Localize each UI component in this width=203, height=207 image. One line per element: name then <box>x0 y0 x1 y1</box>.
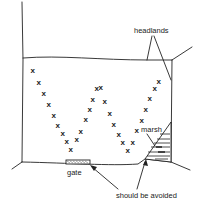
path-marker: x <box>69 145 74 154</box>
path-marker: x <box>75 135 80 144</box>
marsh-label: marsh <box>141 125 162 134</box>
path-marker: x <box>144 105 149 114</box>
path-marker: x <box>99 83 104 92</box>
avoid-label: should be avoided <box>116 191 177 200</box>
path-marker: x <box>31 66 36 75</box>
path-marker: x <box>91 95 96 104</box>
headlands-arrow-top <box>147 36 152 60</box>
marsh-arrow <box>147 134 155 146</box>
field-diagram: xxxxxxxxxxxxxxxxxxxxxxxxxxxxx headlands … <box>0 0 203 207</box>
gate <box>66 160 90 164</box>
path-marker: x <box>112 120 117 129</box>
avoid-arrow-gate <box>90 165 118 189</box>
path-marker: x <box>103 97 108 106</box>
path-marker: x <box>157 77 162 86</box>
headlands-label: headlands <box>134 26 169 35</box>
planting-path-markers: xxxxxxxxxxxxxxxxxxxxxxxxxxxxx <box>31 66 162 155</box>
path-marker: x <box>88 105 93 114</box>
path-marker: x <box>42 89 47 98</box>
path-marker: x <box>79 127 84 136</box>
path-marker: x <box>148 94 153 103</box>
path-marker: x <box>52 111 57 120</box>
path-marker: x <box>47 100 52 109</box>
path-marker: x <box>108 109 113 118</box>
path-marker: x <box>84 115 89 124</box>
path-marker: x <box>135 126 140 135</box>
gate-label: gate <box>67 168 82 177</box>
headlands-arrow-side <box>154 36 171 80</box>
path-marker: x <box>131 138 136 147</box>
path-marker: x <box>126 146 131 155</box>
path-marker: x <box>140 116 145 125</box>
path-marker: x <box>37 78 42 87</box>
